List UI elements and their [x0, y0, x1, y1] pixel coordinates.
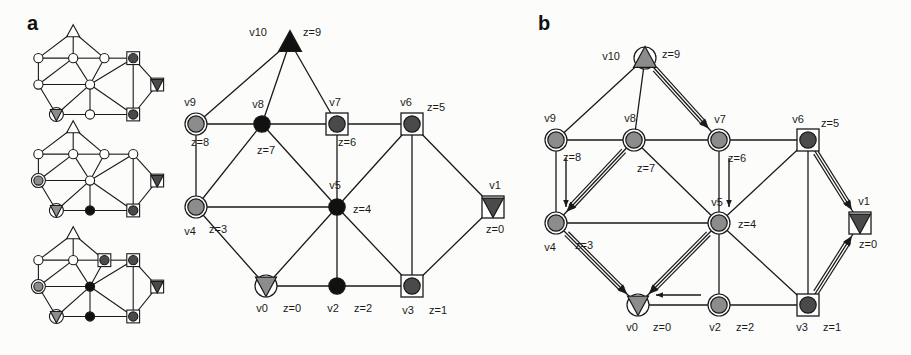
- thumbnail-step-3-node-v10[interactable]: [67, 227, 80, 239]
- panel-b-node-v9-circle[interactable]: [548, 132, 564, 148]
- panel-a-node-v3-zlabel: z=1: [429, 304, 447, 316]
- panel-b-node-v4-circle[interactable]: [548, 215, 564, 231]
- panel-a-node-v8[interactable]: v8z=7: [252, 98, 275, 156]
- thumbnail-step-2-node-v2[interactable]: [85, 206, 94, 215]
- thumbnail-step-1-node-v10[interactable]: [67, 25, 80, 37]
- panel-b-node-v6-zlabel: z=5: [821, 117, 839, 129]
- panel-b-node-v6-label: v6: [792, 113, 804, 125]
- thumbnail-step-3-node-v5[interactable]: [85, 282, 94, 291]
- panel-b-arrow-v3-v1-rail-0: [814, 240, 846, 291]
- panel-a-node-v2-zlabel: z=2: [354, 302, 372, 314]
- panel-b-arrow-v9-v4-head: [563, 200, 569, 207]
- panel-b-node-v8-circle[interactable]: [626, 132, 642, 148]
- thumbnail-step-3-node-v6[interactable]: [129, 256, 138, 265]
- panel-a-edge-v0-v5: [266, 207, 337, 286]
- panel-b-arrow-v5-v0-rail-1: [652, 232, 707, 288]
- thumbnail-step-2-node-v9[interactable]: [34, 150, 43, 159]
- thumbnail-step-1-node-v6[interactable]: [129, 54, 138, 63]
- panel-a-node-v6-zlabel: z=5: [427, 101, 445, 113]
- panel-b-node-v3[interactable]: v3z=1: [796, 294, 841, 333]
- panel-b-node-v0[interactable]: v0z=0: [626, 294, 671, 333]
- panel-a-node-v8-circle[interactable]: [254, 116, 270, 132]
- thumbnail-step-3-node-v4[interactable]: [34, 282, 43, 291]
- thumbnail-step-2-node-v6[interactable]: [129, 150, 138, 159]
- panel-b-arrow-v9-v4: [563, 158, 569, 207]
- panel-b-node-v6[interactable]: v6z=5: [792, 113, 839, 151]
- thumbnail-step-1-node-v4[interactable]: [34, 80, 43, 89]
- thumbnail-step-1-node-v5[interactable]: [85, 80, 94, 89]
- panel-b-node-v4-label: v4: [544, 241, 556, 253]
- panel-b-node-v7-circle[interactable]: [711, 132, 727, 148]
- panel-a-node-v6-circle[interactable]: [404, 116, 420, 132]
- panel-b-node-v6-circle[interactable]: [800, 132, 816, 148]
- panel-b-arrow-v2-v0-head: [656, 292, 663, 298]
- panel-a-edge-v1-v3: [412, 207, 493, 286]
- panel-a-node-v2-circle[interactable]: [329, 278, 345, 294]
- panel-a-node-v7-circle[interactable]: [329, 116, 345, 132]
- panel-a-node-v2-label: v2: [327, 302, 339, 314]
- panel-a-node-v6[interactable]: v6z=5: [400, 96, 445, 135]
- panel-b-node-v7[interactable]: v7z=6: [708, 113, 746, 164]
- thumbnail-step-2-node-v8[interactable]: [69, 150, 78, 159]
- panel-a-node-v4[interactable]: v4z=3: [184, 196, 227, 237]
- panel-b-node-v2-circle[interactable]: [711, 297, 727, 313]
- panel-b-node-v1-label: v1: [858, 195, 870, 207]
- panel-b-node-v0-zlabel: z=0: [653, 321, 671, 333]
- thumbnail-step-1-node-v2[interactable]: [85, 110, 94, 119]
- panel-b-node-v1-zlabel: z=0: [859, 238, 877, 250]
- panel-b-node-v10[interactable]: v10z=9: [602, 47, 680, 70]
- panel-a-node-v4-circle[interactable]: [188, 199, 204, 215]
- panel-a-node-v4-label: v4: [184, 225, 196, 237]
- thumbnail-step-2: [31, 121, 163, 218]
- panel-b-node-v8-zlabel: z=7: [637, 162, 655, 174]
- thumbnail-step-2-node-v7[interactable]: [100, 150, 109, 159]
- thumbnail-step-3-node-v9[interactable]: [34, 256, 43, 265]
- panel-b-node-v1[interactable]: v1z=0: [849, 195, 877, 250]
- panel-b-arrow-v6-v1-head: [843, 199, 852, 210]
- thumbnail-step-1-node-v7[interactable]: [100, 54, 109, 63]
- panel-a-node-v10-triangle-up[interactable]: [279, 31, 302, 52]
- panel-a-node-v10[interactable]: v10z=9: [249, 26, 321, 51]
- panel-b-node-v2[interactable]: v2z=2: [708, 294, 754, 333]
- thumbnail-step-3-node-v3[interactable]: [129, 312, 138, 321]
- panel-a-node-v5[interactable]: v5z=4: [329, 179, 371, 215]
- thumbnail-step-2-node-v5[interactable]: [85, 176, 94, 185]
- panel-a-node-v9[interactable]: v9z=8: [184, 96, 209, 148]
- thumbnail-step-3-node-v2[interactable]: [85, 312, 94, 321]
- panel-a-edge-v8-v5: [262, 124, 337, 207]
- thumbnail-step-1-node-v8[interactable]: [69, 54, 78, 63]
- panel-a-node-v3[interactable]: v3z=1: [401, 275, 447, 316]
- thumbnail-step-3-node-v7[interactable]: [100, 256, 109, 265]
- thumbnail-step-2-node-v4[interactable]: [34, 176, 43, 185]
- thumbnail-step-3-node-v8[interactable]: [69, 256, 78, 265]
- panel-b-node-v8-label: v8: [624, 112, 636, 124]
- thumbnail-step-1-node-v3[interactable]: [129, 110, 138, 119]
- panel-a-node-v0[interactable]: v0z=0: [255, 275, 301, 314]
- thumbnail-step-2-node-v3[interactable]: [129, 206, 138, 215]
- panel-b-node-v3-circle[interactable]: [800, 297, 816, 313]
- panel-b-arrow-v5-v0-rail-0: [655, 235, 710, 291]
- panel-b-node-v5[interactable]: v5z=4: [708, 196, 756, 234]
- panel-a-node-v1[interactable]: v1z=0: [482, 179, 504, 235]
- panel-a-node-v3-circle[interactable]: [404, 278, 420, 294]
- panel-b-node-v5-circle[interactable]: [711, 215, 727, 231]
- panel-a-node-v2[interactable]: v2z=2: [327, 278, 372, 314]
- panel-b-arrow-v6-v1-rail-1: [814, 154, 846, 206]
- panel-a-node-v5-circle[interactable]: [329, 199, 345, 215]
- panel-b-arrow-v2-v0: [656, 292, 701, 298]
- thumbnail-step-1-node-v9[interactable]: [34, 54, 43, 63]
- panel-a-node-v9-circle[interactable]: [188, 116, 204, 132]
- thumbnail-step-2-node-v10[interactable]: [67, 121, 80, 133]
- panel-b-arrow-v3-v1-rail-1: [818, 243, 850, 294]
- panel-b-node-v2-zlabel: z=2: [736, 321, 754, 333]
- panel-b-node-v9-label: v9: [544, 112, 556, 124]
- panel-b-node-v8[interactable]: v8z=7: [623, 112, 655, 174]
- panel-b-arrow-v10-v7-rail-0: [657, 67, 706, 122]
- panel-b-node-v2-label: v2: [709, 321, 721, 333]
- panel-a-node-v5-zlabel: z=4: [353, 203, 371, 215]
- panel-a-node-v5-label: v5: [329, 179, 341, 191]
- panel-b-node-v9[interactable]: v9z=8: [544, 112, 581, 163]
- panel-a-node-v1-zlabel: z=0: [486, 223, 504, 235]
- panel-a-node-v8-label: v8: [252, 98, 264, 110]
- panel-a-node-v7[interactable]: v7z=6: [326, 96, 356, 148]
